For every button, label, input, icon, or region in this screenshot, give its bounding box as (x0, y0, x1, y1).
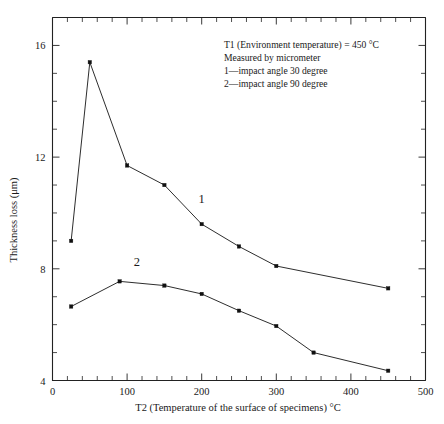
y-tick-label: 12 (35, 152, 46, 163)
data-point-marker (88, 60, 91, 63)
data-point-marker (312, 351, 315, 354)
y-tick-label: 16 (35, 40, 46, 51)
data-point-marker (69, 305, 72, 308)
data-point-marker (200, 292, 203, 295)
x-axis-title: T2 (Temperature of the surface of specim… (135, 402, 341, 414)
y-tick-label: 4 (40, 376, 46, 387)
x-tick-label: 300 (268, 386, 284, 397)
y-axis-title: Thickness loss (μm) (8, 177, 20, 262)
annotation-line-1: T1 (Environment temperature) = 450 °C (224, 39, 379, 51)
data-point-marker (163, 183, 166, 186)
data-point-marker (387, 287, 390, 290)
annotation-line-4: 2—impact angle 90 degree (224, 78, 328, 89)
data-point-marker (275, 264, 278, 267)
chart-background (0, 0, 444, 424)
x-tick-label: 500 (418, 386, 434, 397)
x-tick-label: 200 (194, 386, 210, 397)
data-point-marker (125, 164, 128, 167)
data-point-marker (163, 284, 166, 287)
data-point-marker (275, 324, 278, 327)
x-tick-label: 400 (343, 386, 359, 397)
data-point-marker (237, 245, 240, 248)
data-point-marker (237, 309, 240, 312)
y-tick-label: 8 (40, 264, 45, 275)
data-point-marker (387, 369, 390, 372)
annotation-line-2: Measured by micrometer (224, 52, 321, 63)
x-tick-label: 100 (119, 386, 135, 397)
data-point-marker (200, 222, 203, 225)
data-point-marker (118, 280, 121, 283)
x-tick-label: 0 (50, 386, 55, 397)
series-label-1: 1 (199, 192, 205, 206)
chart-figure: 0100200300400500 481216 12 T2 (Temperatu… (0, 0, 444, 424)
thickness-loss-line-chart: 0100200300400500 481216 12 T2 (Temperatu… (0, 0, 444, 424)
annotation-line-3: 1—impact angle 30 degree (224, 65, 328, 76)
data-point-marker (69, 239, 72, 242)
series-label-2: 2 (134, 255, 140, 269)
